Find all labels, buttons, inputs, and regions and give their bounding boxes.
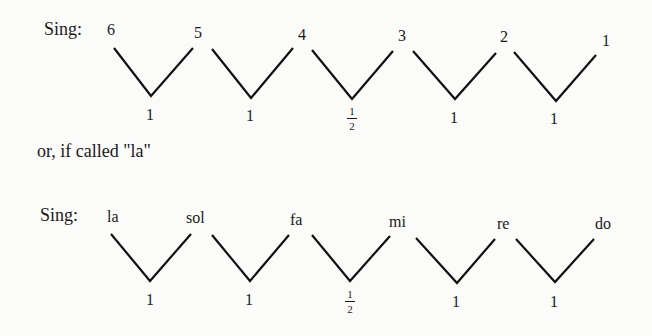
- fraction-numerator: 1: [349, 106, 355, 117]
- syllable-re: re: [497, 216, 509, 232]
- interval-vee: [312, 235, 390, 281]
- sing-label: Sing:: [40, 206, 78, 224]
- fraction-numerator: 1: [347, 289, 353, 300]
- connector-text: or, if called "la": [37, 142, 151, 160]
- fraction-denominator: 2: [349, 121, 355, 132]
- fraction-bar: [345, 301, 355, 302]
- interval-vee: [413, 51, 496, 99]
- interval-step: 1: [452, 294, 460, 310]
- interval-vee: [312, 50, 393, 99]
- syllable-sol: sol: [186, 210, 205, 226]
- syllable-fa: fa: [290, 212, 302, 228]
- interval-step: 1: [450, 110, 458, 126]
- interval-vee: [111, 234, 191, 281]
- interval-step: 1: [550, 294, 558, 310]
- interval-step: 1: [245, 292, 253, 308]
- syllable-mi: mi: [389, 214, 406, 230]
- interval-vee-lines: [0, 0, 652, 336]
- fraction-bar: [347, 118, 357, 119]
- interval-vee: [114, 48, 193, 96]
- interval-half-step: 1 2: [347, 106, 357, 132]
- interval-step: 1: [146, 292, 154, 308]
- fraction-denominator: 2: [347, 304, 353, 315]
- syllable-la: la: [107, 209, 119, 225]
- interval-half-step: 1 2: [345, 289, 355, 315]
- interval-step: 1: [146, 107, 154, 123]
- interval-vee: [514, 52, 596, 101]
- interval-vee: [212, 48, 293, 98]
- syllable-do: do: [595, 216, 611, 232]
- interval-step: 1: [246, 108, 254, 124]
- interval-step: 1: [550, 111, 558, 127]
- interval-vee: [416, 238, 495, 283]
- interval-vee: [212, 235, 289, 281]
- interval-vee: [516, 239, 594, 282]
